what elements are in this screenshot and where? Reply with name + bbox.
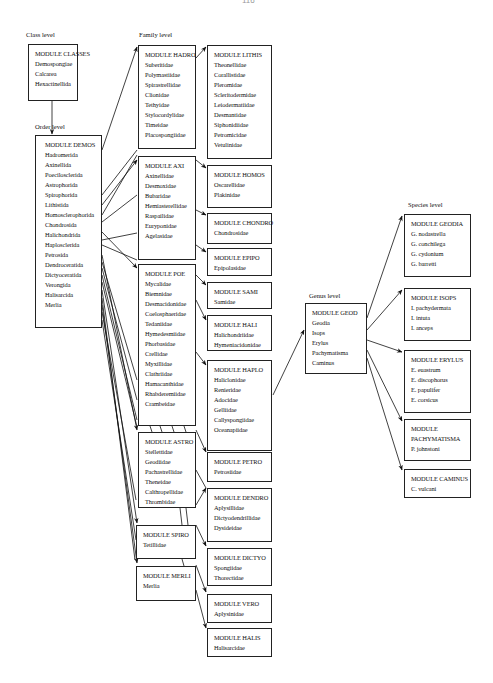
module-caminus-box[interactable]: MODULE CAMINUS C. vulcani xyxy=(404,469,471,498)
module-item: Merlia xyxy=(143,581,191,591)
module-item: Halisarcidae xyxy=(214,643,267,653)
module-item: Rhabderemiidae xyxy=(145,389,191,399)
module-item: Thrombidae xyxy=(145,497,191,507)
module-haplo-box[interactable]: MODULE HAPLO Haliclonidae Renieridae Ado… xyxy=(207,360,272,451)
module-title: MODULE LITHIS xyxy=(214,50,267,60)
genus-level-label: Genus level xyxy=(309,292,340,299)
module-dictyo-box[interactable]: MODULE DICTYO Spongiidae Thorectidae xyxy=(207,548,272,586)
module-item: Lithistida xyxy=(45,200,97,210)
module-item: Halichondrida xyxy=(45,230,97,240)
arrow-demos-to-axi xyxy=(102,160,137,205)
module-item: Corallistidae xyxy=(214,70,267,80)
module-dendro-box[interactable]: MODULE DENDRO Aplysillidae Dictyodendril… xyxy=(207,488,272,542)
module-item: C. vulcani xyxy=(411,484,466,494)
module-item: Polymastiidae xyxy=(145,70,191,80)
module-item: Callyspongiidae xyxy=(214,415,267,425)
module-item: Desmacidonidae xyxy=(145,299,191,309)
module-title: MODULE HALI xyxy=(214,320,267,330)
module-item: Petromicidae xyxy=(214,130,267,140)
module-petro-box[interactable]: MODULE PETRO Petrosiidae xyxy=(207,452,272,482)
module-title: MODULE ASTRO xyxy=(145,437,191,447)
module-merli-box[interactable]: MODULE MERLI Merlia xyxy=(136,566,196,601)
module-pachymatisma-box[interactable]: MODULE PACHYMATISMA P. johnstoni xyxy=(404,419,471,461)
module-item: Haliclonidae xyxy=(214,375,267,385)
module-epipo-box[interactable]: MODULE EPIPO Epipolasidae xyxy=(207,248,272,276)
module-sami-box[interactable]: MODULE SAMI Samidae xyxy=(207,282,272,309)
module-item: Calthropellidae xyxy=(145,487,191,497)
module-vero-box[interactable]: MODULE VERO Aplysinidae xyxy=(207,594,272,623)
module-title: MODULE VERO xyxy=(214,599,267,609)
module-title: MODULE ISOPS xyxy=(411,293,466,303)
module-item: Pachymatisma xyxy=(312,348,362,358)
module-item: Tetillidae xyxy=(143,540,191,550)
module-item: Vetulinidae xyxy=(214,140,267,150)
connector-line xyxy=(102,262,137,380)
connector-line xyxy=(102,155,137,215)
module-title: MODULE CAMINUS xyxy=(411,474,466,484)
module-item: Hexactinellida xyxy=(35,79,73,89)
module-item: Placospongiidae xyxy=(145,130,191,140)
module-item: Merlia xyxy=(45,300,97,310)
module-homos-box[interactable]: MODULE HOMOS Oscarellidae Plakinidae xyxy=(207,165,272,208)
module-item: Hamacanthidae xyxy=(145,379,191,389)
module-title: MODULE MERLI xyxy=(143,571,191,581)
module-item: I. intuta xyxy=(411,313,466,323)
module-item: Poecilosclerida xyxy=(45,170,97,180)
arrow-geod-to-isops xyxy=(367,290,402,330)
module-item: Biemnidae xyxy=(145,289,191,299)
module-geod-box[interactable]: MODULE GEOD Geodia Isops Erylus Pachymat… xyxy=(305,303,367,374)
module-item: Stellettidae xyxy=(145,447,191,457)
connector-line xyxy=(182,559,184,566)
arrow-merli-to-vero xyxy=(196,565,206,592)
module-spiro-box[interactable]: MODULE SPIRO Tetillidae xyxy=(136,525,196,559)
module-item: Agelasidae xyxy=(145,231,191,241)
module-hali-box[interactable]: MODULE HALI Halichondriidae Hymeniacidon… xyxy=(207,315,272,351)
module-item: Epipolasidae xyxy=(214,263,267,273)
module-item: Phorbasidae xyxy=(145,339,191,349)
connector-line xyxy=(102,195,137,222)
module-title: MODULE AXI xyxy=(145,161,191,171)
arrow-axi-to-homos xyxy=(196,160,206,168)
connector-line xyxy=(102,275,137,420)
module-item: Adocidae xyxy=(214,395,267,405)
module-erylus-box[interactable]: MODULE ERYLUS E. euastrum E. discophorus… xyxy=(404,350,471,413)
module-chondro-box[interactable]: MODULE CHONDRO Chondrosidae xyxy=(207,213,272,244)
arrow-poe-to-sami xyxy=(196,275,206,285)
module-lithis-box[interactable]: MODULE LITHIS Theonellidae Corallistidae… xyxy=(207,45,272,159)
module-item: Isops xyxy=(312,328,362,338)
module-item: Spirastrellidae xyxy=(145,80,191,90)
module-isops-box[interactable]: MODULE ISOPS I. pachydermata I. intuta I… xyxy=(404,288,471,341)
module-hadro-box[interactable]: MODULE HADRO Suberitidae Polymastiidae S… xyxy=(138,45,196,149)
arrow-demos-to-hadro xyxy=(102,47,137,150)
module-astro-box[interactable]: MODULE ASTRO Stellettidae Geodiidae Pach… xyxy=(138,432,196,508)
module-item: Halichondriidae xyxy=(214,330,267,340)
module-item: Crambeidae xyxy=(145,399,191,409)
module-item: Axinellida xyxy=(45,160,97,170)
module-item: G. cydonium xyxy=(411,249,466,259)
module-title: MODULE PACHYMATISMA xyxy=(411,424,461,444)
arrow-geod-to-erylus xyxy=(367,340,402,352)
module-item: Axinellidae xyxy=(145,171,191,181)
module-axi-box[interactable]: MODULE AXI Axinellidae Desmoxidae Bubari… xyxy=(138,156,196,260)
module-item: Mycalidae xyxy=(145,279,191,289)
module-halis-box[interactable]: MODULE HALIS Halisarcidae xyxy=(207,628,272,657)
module-poe-box[interactable]: MODULE POE Mycalidae Biemnidae Desmacido… xyxy=(138,264,196,426)
module-demos-box[interactable]: MODULE DEMOS Hadromerida Axinellida Poec… xyxy=(35,135,102,328)
module-classes-box[interactable]: MODULE CLASSES Demospongiae Calcarea Hex… xyxy=(28,44,78,101)
module-item: Suberitidae xyxy=(145,60,191,70)
module-title: MODULE EPIPO xyxy=(214,253,267,263)
module-item: Verongida xyxy=(45,280,97,290)
family-level-label: Family level xyxy=(139,31,172,38)
arrow-poe-to-hali xyxy=(196,300,206,320)
module-geodia-box[interactable]: MODULE GEODIA G. nodastrella G. conchile… xyxy=(404,214,471,277)
module-title: MODULE HAPLO xyxy=(214,365,267,375)
arrow-hadro-to-lithis xyxy=(196,47,206,58)
module-item: Coelosphaeridae xyxy=(145,309,191,319)
module-title: MODULE DICTYO xyxy=(214,553,267,563)
module-item: Hadromerida xyxy=(45,150,97,160)
module-item: Demospongiae xyxy=(35,59,73,69)
module-item: Chondrosidae xyxy=(214,228,267,238)
module-item: Raspailidae xyxy=(145,211,191,221)
connector-line xyxy=(102,233,137,240)
module-item: Pachastrellidae xyxy=(145,467,191,477)
